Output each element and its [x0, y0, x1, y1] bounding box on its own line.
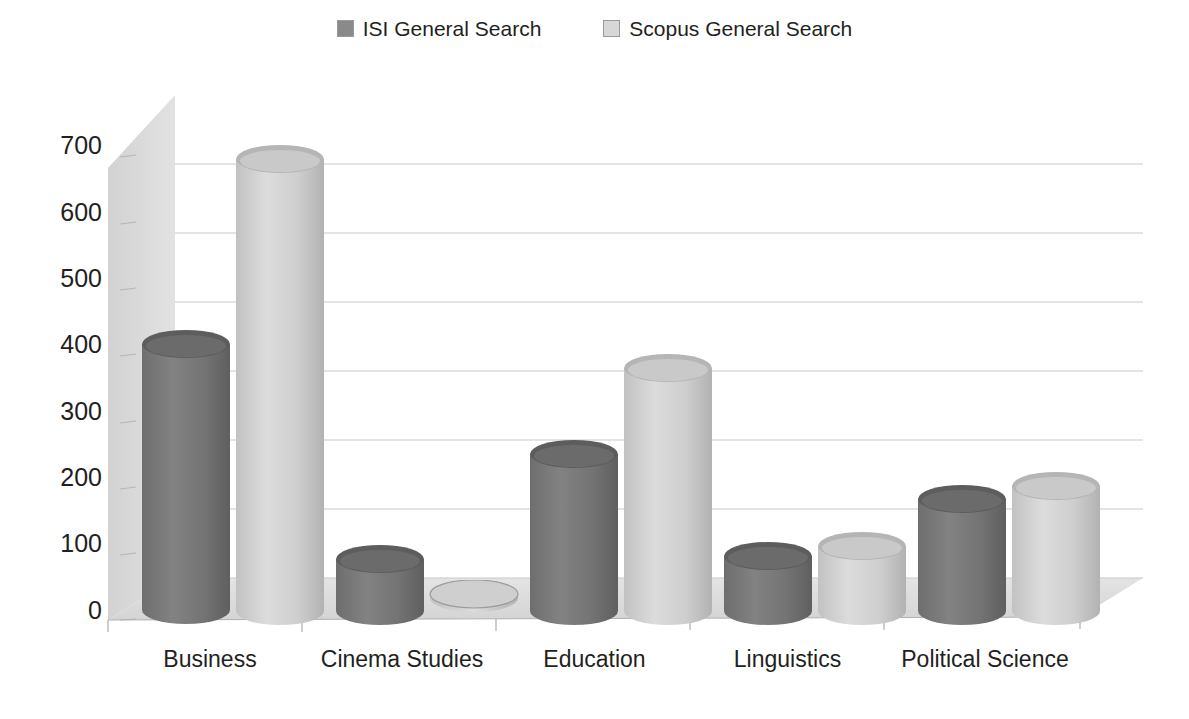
x-tick-business: Business	[125, 648, 295, 671]
x-tick-linguistics: Linguistics	[700, 648, 875, 671]
bar-isi-business[interactable]	[140, 330, 232, 630]
bar-scopus-business[interactable]	[234, 145, 326, 630]
y-tick-100: 100	[10, 531, 102, 556]
y-tick-200: 200	[10, 465, 102, 490]
bar-isi-political-science[interactable]	[916, 485, 1008, 630]
y-tick-500: 500	[10, 266, 102, 291]
bar-isi-cinema-studies[interactable]	[334, 545, 426, 630]
x-tick-political-science: Political Science	[885, 648, 1085, 671]
y-tick-600: 600	[10, 200, 102, 225]
bars-layer	[0, 0, 1189, 719]
chart-figure: ISI General Search Scopus General Search	[0, 0, 1189, 719]
y-tick-300: 300	[10, 399, 102, 424]
bar-scopus-political-science[interactable]	[1010, 472, 1102, 630]
bar-isi-education[interactable]	[528, 440, 620, 630]
bar-scopus-linguistics[interactable]	[816, 532, 908, 630]
y-tick-0: 0	[10, 598, 102, 623]
x-tick-education: Education	[512, 648, 677, 671]
bar-scopus-cinema-studies[interactable]	[428, 580, 520, 630]
y-tick-400: 400	[10, 332, 102, 357]
y-tick-700: 700	[10, 133, 102, 158]
bar-isi-linguistics[interactable]	[722, 542, 814, 630]
x-tick-cinema-studies: Cinema Studies	[312, 648, 492, 671]
bar-scopus-education[interactable]	[622, 354, 714, 630]
